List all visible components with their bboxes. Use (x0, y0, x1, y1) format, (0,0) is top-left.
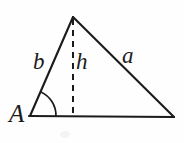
vertex-a-label: A (9, 101, 24, 126)
side-a-label: a (122, 44, 134, 67)
side-b-label: b (33, 50, 45, 73)
paper-smudge-artifact (60, 131, 70, 138)
triangle-diagram-svg (0, 0, 184, 143)
geometry-figure: b h a A (0, 0, 184, 143)
altitude-h-label: h (76, 50, 88, 73)
base-line (29, 116, 174, 117)
angle-arc-at-A (41, 92, 56, 116)
